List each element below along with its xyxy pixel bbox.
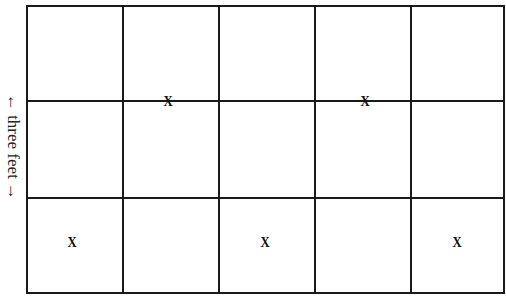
x-mark: X [360,93,369,110]
x-mark: X [67,234,76,251]
x-mark: X [163,93,172,110]
x-mark: X [260,234,269,251]
grid-column-line [314,7,316,292]
grid [26,5,505,294]
grid-row-line [28,197,503,199]
grid-column-line [218,7,220,292]
grid-column-line [122,7,124,292]
grid-column-line [410,7,412,292]
x-mark: X [452,234,461,251]
side-dimension-label: ← three feet → [3,94,23,200]
grid-row-line [28,100,503,102]
